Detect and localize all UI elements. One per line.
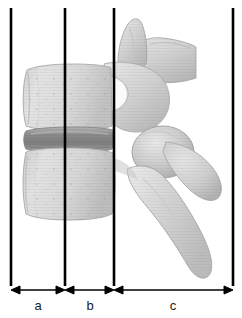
arrowhead-c-left bbox=[114, 286, 123, 294]
segment-label-b: b bbox=[80, 298, 100, 313]
arrowhead-a-right bbox=[56, 286, 65, 294]
figure-container: a b c bbox=[0, 0, 242, 318]
arrowhead-a-left bbox=[11, 286, 20, 294]
arrowhead-b-left bbox=[65, 286, 74, 294]
arrowhead-b-right bbox=[105, 286, 114, 294]
reference-lines bbox=[11, 8, 233, 286]
arrowhead-c-right bbox=[224, 286, 233, 294]
segment-label-a: a bbox=[28, 298, 48, 313]
segment-label-c: c bbox=[163, 298, 183, 313]
measurement-overlay bbox=[0, 0, 242, 318]
dimension-scale bbox=[11, 286, 233, 294]
